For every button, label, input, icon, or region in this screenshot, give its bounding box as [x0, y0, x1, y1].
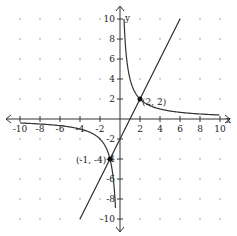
grid-dot [139, 18, 140, 19]
x-tick-label: 4 [157, 124, 163, 134]
hyperbola-negative-branch [20, 123, 116, 208]
grid-dot [199, 38, 200, 39]
y-tick-label: -8 [106, 194, 115, 204]
grid-dot [139, 58, 140, 59]
grid-dot [179, 138, 180, 139]
x-tick-label: -10 [13, 124, 28, 134]
grid-dot [99, 18, 100, 19]
grid-dot [219, 58, 220, 59]
grid-dot [39, 38, 40, 39]
coordinate-graph: -10-8-6-4-2246810-10-8-6-4-2246810 x y (… [0, 0, 237, 236]
grid-dot [59, 58, 60, 59]
grid-dot [219, 38, 220, 39]
grid-dot [39, 138, 40, 139]
grid-dot [199, 58, 200, 59]
grid-dot [199, 178, 200, 179]
grid-dot [59, 78, 60, 79]
grid-dot [59, 178, 60, 179]
x-tick-label: -8 [36, 124, 45, 134]
grid-dot [99, 198, 100, 199]
grid-dot [199, 158, 200, 159]
grid-dot [19, 78, 20, 79]
grid-dot [179, 158, 180, 159]
grid-dot [79, 18, 80, 19]
grid-dot [79, 98, 80, 99]
grid-dot [99, 58, 100, 59]
y-tick-label: 4 [109, 74, 115, 84]
grid-dot [199, 18, 200, 19]
x-tick-label: 2 [137, 124, 143, 134]
grid-dot [179, 38, 180, 39]
grid-dot [159, 18, 160, 19]
grid-dot [219, 78, 220, 79]
grid-dot [179, 198, 180, 199]
grid-dot [219, 18, 220, 19]
grid-dot [219, 138, 220, 139]
grid-dot [19, 138, 20, 139]
grid-dot [219, 98, 220, 99]
grid-dot [99, 38, 100, 39]
y-tick-label: 2 [109, 94, 115, 104]
grid-dot [39, 218, 40, 219]
grid-dot [219, 158, 220, 159]
grid-dot [159, 158, 160, 159]
grid-dot [179, 58, 180, 59]
grid-dot [199, 218, 200, 219]
grid-dot [219, 178, 220, 179]
grid-dot [139, 78, 140, 79]
x-tick-label: 10 [214, 124, 226, 134]
grid-dot [19, 178, 20, 179]
grid-dot [19, 98, 20, 99]
grid-dot [219, 218, 220, 219]
y-tick-label: -2 [106, 134, 115, 144]
grid-dot [139, 38, 140, 39]
grid-dot [59, 138, 60, 139]
y-axis-label: y [124, 13, 131, 23]
grid-dot [179, 78, 180, 79]
intersection-point [108, 157, 113, 162]
grid-dot [179, 98, 180, 99]
grid-dot [139, 218, 140, 219]
grid-dot [159, 38, 160, 39]
grid-dot [19, 218, 20, 219]
grid-dot [79, 78, 80, 79]
grid-dot [159, 198, 160, 199]
grid-dot [219, 198, 220, 199]
grid-dot [159, 138, 160, 139]
grid-dot [39, 78, 40, 79]
grid-dot [199, 98, 200, 99]
grid-dot [199, 138, 200, 139]
grid-dot [39, 58, 40, 59]
y-tick-label: 10 [104, 14, 116, 24]
graph-canvas: -10-8-6-4-2246810-10-8-6-4-2246810 x y (… [0, 0, 237, 236]
grid-dot [59, 98, 60, 99]
grid-dot [59, 198, 60, 199]
point-label-neg1-neg4: (-1, -4) [76, 155, 106, 165]
grid-dot [179, 178, 180, 179]
grid-dot [19, 58, 20, 59]
y-tick-label: 6 [109, 54, 115, 64]
grid-dot [79, 138, 80, 139]
grid-dot [139, 178, 140, 179]
x-tick-label: 6 [177, 124, 183, 134]
y-tick-label: 8 [109, 34, 115, 44]
grid-dot [59, 218, 60, 219]
grid-dot [19, 38, 20, 39]
grid-dot [39, 198, 40, 199]
grid-dot [79, 178, 80, 179]
grid-dot [59, 38, 60, 39]
grid-dot [39, 158, 40, 159]
grid-dot [139, 138, 140, 139]
x-tick-label: 8 [197, 124, 203, 134]
grid-dot [199, 198, 200, 199]
grid-dot [79, 198, 80, 199]
grid-dot [79, 38, 80, 39]
grid-dot [199, 78, 200, 79]
grid-dot [159, 78, 160, 79]
grid-dot [99, 78, 100, 79]
x-tick-label: -2 [96, 124, 105, 134]
grid-dot [19, 158, 20, 159]
grid-dot [159, 218, 160, 219]
grid-dot [59, 158, 60, 159]
grid-dot [139, 198, 140, 199]
